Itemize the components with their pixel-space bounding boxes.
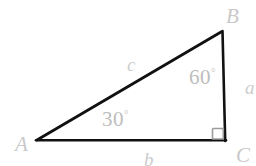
vertex-label-b: B [226, 6, 239, 27]
angle-label-a-30: 30° [102, 109, 128, 130]
side-a-line [223, 31, 226, 141]
side-label-c: c [127, 55, 135, 74]
side-label-a: a [245, 78, 255, 97]
angle-a-value: 30 [102, 107, 124, 131]
degree-symbol-a: ° [124, 108, 128, 120]
triangle-figure [0, 0, 256, 166]
degree-symbol-b: ° [211, 66, 215, 78]
angle-label-b-60: 60° [189, 67, 215, 88]
diagram-canvas: A B C c a b 30° 60° [0, 0, 256, 166]
side-label-b: b [144, 150, 154, 166]
vertex-label-a: A [15, 134, 28, 155]
vertex-label-c: C [236, 145, 250, 166]
right-angle-marker [213, 129, 225, 140]
right-angle-marker-inner [213, 129, 224, 140]
angle-b-value: 60 [189, 65, 211, 89]
